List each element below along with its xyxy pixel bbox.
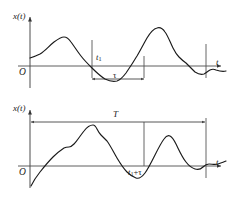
figure-canvas: [0, 0, 228, 198]
upper-origin-label: O: [19, 68, 26, 78]
upper-t1-subscript: 1: [98, 56, 101, 62]
upper-y-axis-label: x(t): [13, 12, 26, 21]
lower-x-axis-label: t: [216, 158, 219, 167]
lower-T-span-label: T: [113, 110, 118, 119]
lower-t1-tail: +τ: [133, 167, 141, 177]
lower-origin-label: O: [19, 168, 26, 178]
upper-x-axis-label: t: [216, 58, 219, 67]
upper-tau-span-label: τ: [113, 71, 116, 80]
signal-waveform-figure: x(t) O t t1 τ x(t) O t T t1+τ: [0, 0, 228, 198]
lower-y-axis-label: x(t): [13, 104, 26, 113]
upper-marker-t1-label: t1: [96, 53, 101, 62]
lower-marker-t1-plus-tau-label: t1+τ: [128, 168, 142, 177]
lower-panel: [18, 110, 226, 188]
upper-panel: [18, 17, 226, 88]
upper-waveform: [30, 28, 226, 82]
